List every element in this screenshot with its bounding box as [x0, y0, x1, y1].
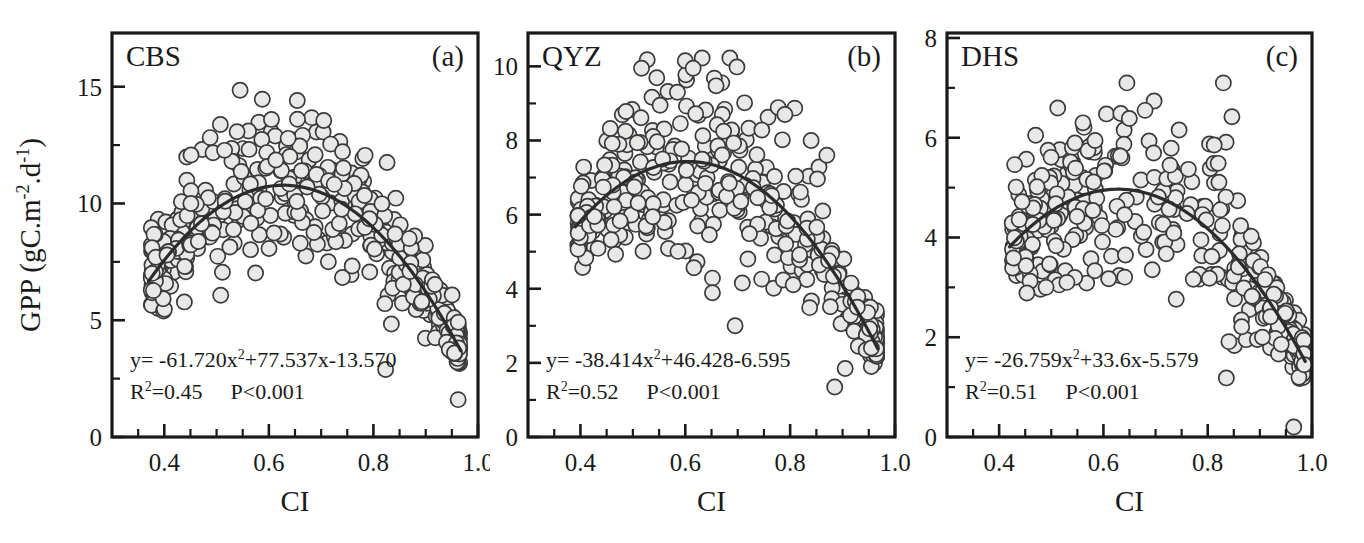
panel-site-title: CBS [126, 40, 181, 72]
x-tick-label: 0.4 [984, 449, 1016, 476]
y-tick-label: 4 [925, 224, 938, 251]
regression-stats: R2=0.51P<0.001 [965, 379, 1140, 404]
y-tick-label: 8 [925, 25, 938, 52]
y-tick-label: 2 [925, 324, 938, 351]
chart-panel-dhs: 024680.40.60.81.0DHS(c)y= -26.759x2+33.6… [920, 0, 1364, 543]
regression-stats: R2=0.45P<0.001 [130, 379, 305, 404]
y-axis: 0246810 [493, 53, 541, 451]
regression-stats: R2=0.52P<0.001 [546, 379, 721, 404]
chart-panel-cbs: 0510150.40.60.81.0CBS(a)y= -61.720x2+77.… [0, 0, 490, 543]
y-tick-label: 10 [493, 53, 518, 80]
x-axis-title: CI [281, 485, 310, 517]
panel-letter: (b) [847, 40, 881, 73]
x-tick-label: 0.4 [149, 449, 181, 476]
y-tick-label: 0 [925, 424, 938, 451]
y-tick-label: 4 [506, 276, 519, 303]
panel-site-title: QYZ [542, 40, 602, 72]
x-tick-label: 1.0 [1296, 449, 1327, 476]
regression-equation: y= -26.759x2+33.6x-5.579 [965, 347, 1198, 372]
regression-equation: y= -61.720x2+77.537x-13.570 [130, 347, 396, 372]
scatter-plot-dhs: 024680.40.60.81.0DHS(c)y= -26.759x2+33.6… [920, 0, 1364, 543]
x-axis: 0.40.60.81.0 [554, 424, 910, 476]
scatter-points [570, 50, 884, 394]
y-tick-label: 10 [77, 190, 102, 217]
y-axis: 02468 [925, 25, 961, 451]
y-tick-label: 15 [77, 74, 102, 101]
y-tick-label: 0 [90, 424, 103, 451]
regression-equation: y= -38.414x2+46.428-6.595 [546, 347, 790, 372]
x-tick-label: 0.8 [358, 449, 389, 476]
panel-letter: (c) [1266, 40, 1298, 73]
x-tick-label: 0.4 [565, 449, 597, 476]
x-tick-label: 0.8 [775, 449, 806, 476]
scatter-plot-qyz: 02468100.40.60.81.0QYZ(b)y= -38.414x2+46… [490, 0, 920, 543]
x-axis-title: CI [697, 485, 726, 517]
y-axis: 051015 [77, 74, 125, 451]
chart-panel-qyz: 02468100.40.60.81.0QYZ(b)y= -38.414x2+46… [490, 0, 920, 543]
x-axis-title: CI [1115, 485, 1144, 517]
panel-letter: (a) [432, 40, 464, 73]
x-tick-label: 0.6 [1088, 449, 1119, 476]
x-tick-label: 1.0 [462, 449, 490, 476]
panel-site-title: DHS [961, 40, 1019, 72]
y-tick-label: 8 [506, 127, 519, 154]
y-axis-title: GPP (gC.m-2.d-1) [13, 138, 47, 332]
x-tick-label: 0.6 [670, 449, 701, 476]
y-tick-label: 6 [506, 202, 519, 229]
y-tick-label: 0 [506, 424, 519, 451]
y-tick-label: 5 [90, 307, 103, 334]
x-tick-label: 0.8 [1192, 449, 1223, 476]
scatter-points [1005, 75, 1312, 434]
scatter-plot-cbs: 0510150.40.60.81.0CBS(a)y= -61.720x2+77.… [0, 0, 490, 543]
x-axis: 0.40.60.81.0 [138, 424, 490, 476]
x-tick-label: 1.0 [879, 449, 910, 476]
x-axis: 0.40.60.81.0 [973, 424, 1328, 476]
figure-root: 0510150.40.60.81.0CBS(a)y= -61.720x2+77.… [0, 0, 1364, 543]
x-tick-label: 0.6 [253, 449, 284, 476]
y-tick-label: 6 [925, 125, 938, 152]
y-tick-label: 2 [506, 350, 519, 377]
